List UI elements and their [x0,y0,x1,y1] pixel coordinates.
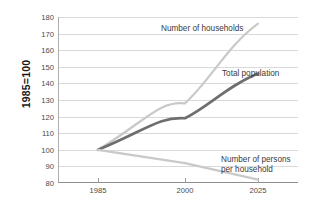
y-tick-label: 180 [32,13,54,22]
y-tick-label: 140 [32,79,54,88]
annotation-persons-per-household: Number of persons per household [221,155,291,174]
y-tick-label: 170 [32,29,54,38]
x-tick-label: 2000 [177,186,194,195]
x-tick-label: 2025 [250,186,267,195]
y-tick-label: 90 [32,162,54,171]
y-tick-label: 150 [32,62,54,71]
y-tick-label: 100 [32,145,54,154]
y-tick-label: 130 [32,96,54,105]
y-axis-title: 1985=100 [20,44,32,124]
y-tick-label: 80 [32,179,54,188]
annotation-total-population: Total population [222,69,279,79]
annotation-number-of-households: Number of households [161,24,243,34]
chart-container: 1985=100 8090100110120130140150160170180… [0,0,316,211]
y-tick-label: 160 [32,46,54,55]
y-tick-label: 110 [32,129,54,138]
series-line-total-population [98,73,258,149]
x-tick-label: 1985 [90,186,107,195]
y-tick-label: 120 [32,112,54,121]
